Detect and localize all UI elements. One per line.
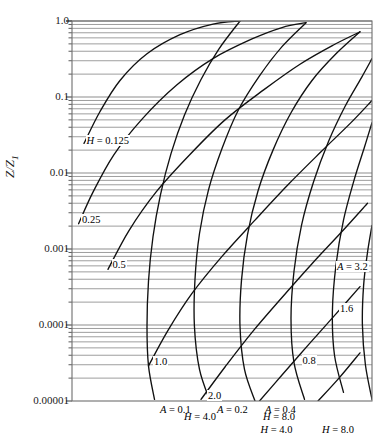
curve-label: 2.0	[207, 390, 222, 401]
y-axis-tick-column: 1.0 0.1 0.01 0.001 0.0001 0.00001	[0, 0, 69, 432]
curve-label: H = 8.0	[321, 424, 355, 435]
x-label-h4: H = 4.0	[184, 411, 216, 422]
curve-h-0p125	[84, 21, 240, 143]
y-tick-label: 0.0001	[7, 318, 69, 330]
y-tick-label: 0.00001	[7, 394, 69, 406]
curve-label: 0.5	[112, 259, 127, 270]
curve-label: 1.6	[339, 303, 354, 314]
y-tick-label: 0.01	[7, 166, 69, 178]
curve-label: A = 0.2	[216, 404, 249, 415]
x-label-h8: H = 8.0	[263, 411, 295, 422]
curve-label: 0.8	[302, 355, 317, 366]
curve-a-0p2	[194, 23, 306, 401]
curve-label: 0.25	[81, 214, 101, 225]
curve-label: H = 4.0	[260, 424, 294, 435]
y-tick-label: 1.0	[7, 14, 69, 26]
curve-label: A = 3.2	[336, 261, 369, 272]
y-tick-label: 0.1	[7, 90, 69, 102]
curve-h-0p25	[79, 23, 306, 224]
y-tick-label: 0.001	[7, 242, 69, 254]
curve-h-1	[149, 100, 373, 365]
curve-label: H = 0.125	[86, 135, 130, 146]
nomograph-curves	[79, 21, 372, 401]
curve-a-1p6	[332, 123, 372, 393]
curve-a-3p2	[362, 225, 372, 399]
curve-label: 1.0	[153, 356, 168, 367]
curve-h-2	[201, 203, 368, 399]
plot-frame	[72, 21, 372, 401]
